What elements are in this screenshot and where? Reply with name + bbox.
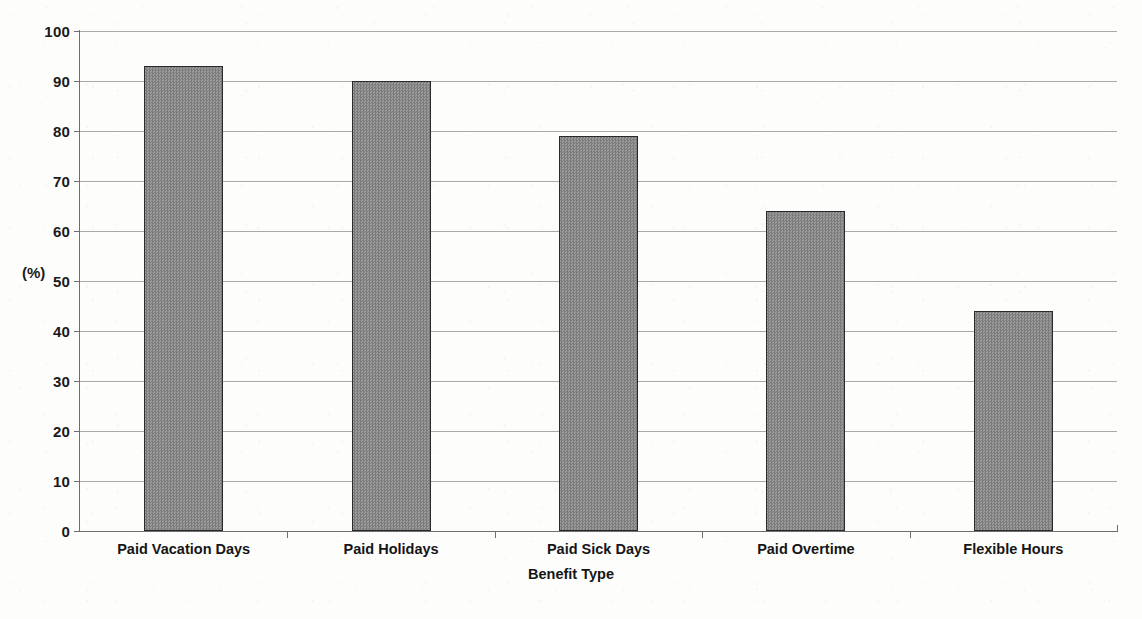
gridline-80 (80, 131, 1117, 132)
x-axis-category-labels: Paid Vacation DaysPaid HolidaysPaid Sick… (80, 541, 1117, 565)
y-tick-90 (74, 81, 80, 82)
y-axis-unit-label: (%) (22, 265, 45, 280)
x-category-label-0: Paid Vacation Days (80, 541, 287, 558)
y-tick-label-10: 10 (53, 474, 70, 489)
y-tick-label-60: 60 (53, 224, 70, 239)
y-tick-label-100: 100 (44, 24, 70, 39)
y-tick-label-70: 70 (53, 174, 70, 189)
y-tick-60 (74, 231, 80, 232)
x-category-label-3: Paid Overtime (702, 541, 909, 558)
plot-area (80, 31, 1117, 531)
y-tick-40 (74, 331, 80, 332)
chart-page: 0102030405060708090100 (%) Paid Vacation… (0, 0, 1142, 619)
x-tick-1 (287, 531, 288, 538)
x-category-label-2: Paid Sick Days (495, 541, 702, 558)
y-tick-70 (74, 181, 80, 182)
x-tick-2 (495, 531, 496, 538)
x-axis-line (79, 531, 1118, 532)
y-tick-100 (74, 31, 80, 32)
bar-0 (144, 66, 223, 531)
y-tick-50 (74, 281, 80, 282)
y-tick-label-20: 20 (53, 424, 70, 439)
bar-1 (352, 81, 431, 531)
y-tick-label-50: 50 (53, 274, 70, 289)
bar-4 (974, 311, 1053, 531)
y-tick-80 (74, 131, 80, 132)
bar-3 (766, 211, 845, 531)
x-tick-3 (702, 531, 703, 538)
y-axis-tick-labels: 0102030405060708090100 (25, 31, 70, 531)
x-tick-4 (910, 531, 911, 538)
x-category-label-1: Paid Holidays (287, 541, 494, 558)
x-axis-right-cap (1117, 525, 1118, 532)
y-tick-label-30: 30 (53, 374, 70, 389)
y-tick-label-80: 80 (53, 124, 70, 139)
x-axis-title: Benefit Type (0, 566, 1142, 583)
y-tick-label-90: 90 (53, 74, 70, 89)
x-category-label-4: Flexible Hours (910, 541, 1117, 558)
y-tick-0 (74, 531, 80, 532)
y-tick-30 (74, 381, 80, 382)
y-tick-10 (74, 481, 80, 482)
y-tick-20 (74, 431, 80, 432)
gridline-100 (80, 31, 1117, 32)
gridline-90 (80, 81, 1117, 82)
y-tick-label-0: 0 (61, 524, 70, 539)
y-tick-label-40: 40 (53, 324, 70, 339)
bar-2 (559, 136, 638, 531)
